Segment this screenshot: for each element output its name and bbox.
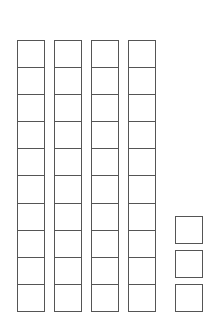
- rod-cell: [55, 41, 81, 68]
- rod-cell: [18, 176, 44, 203]
- rod-cell: [55, 95, 81, 122]
- rod-cell: [129, 204, 155, 231]
- rod-cell: [92, 68, 118, 95]
- rod-cell: [92, 285, 118, 311]
- rod-cell: [92, 258, 118, 285]
- rod-cell: [18, 149, 44, 176]
- rod-cell: [92, 204, 118, 231]
- rod-cell: [92, 122, 118, 149]
- ones-unit-2: [175, 250, 203, 278]
- rod-cell: [55, 258, 81, 285]
- rod-cell: [55, 122, 81, 149]
- tens-rod-1: [17, 40, 45, 312]
- rod-cell: [18, 41, 44, 68]
- rod-cell: [55, 68, 81, 95]
- rod-cell: [129, 95, 155, 122]
- rod-cell: [129, 231, 155, 258]
- rod-cell: [92, 41, 118, 68]
- rod-cell: [129, 258, 155, 285]
- rod-cell: [92, 231, 118, 258]
- rod-cell: [55, 176, 81, 203]
- tens-rod-2: [54, 40, 82, 312]
- rod-cell: [55, 204, 81, 231]
- rod-cell: [18, 95, 44, 122]
- rod-cell: [18, 231, 44, 258]
- rod-cell: [92, 149, 118, 176]
- ones-unit-1: [175, 216, 203, 244]
- tens-rod-3: [91, 40, 119, 312]
- base-ten-blocks-diagram: [0, 0, 221, 329]
- rod-cell: [55, 149, 81, 176]
- rod-cell: [129, 176, 155, 203]
- rod-cell: [18, 204, 44, 231]
- rod-cell: [129, 68, 155, 95]
- rod-cell: [18, 258, 44, 285]
- rod-cell: [92, 176, 118, 203]
- rod-cell: [18, 122, 44, 149]
- tens-rod-4: [128, 40, 156, 312]
- rod-cell: [129, 41, 155, 68]
- rod-cell: [18, 68, 44, 95]
- rod-cell: [18, 285, 44, 311]
- rod-cell: [129, 149, 155, 176]
- rod-cell: [55, 231, 81, 258]
- rod-cell: [55, 285, 81, 311]
- rod-cell: [129, 285, 155, 311]
- rod-cell: [129, 122, 155, 149]
- ones-unit-3: [175, 284, 203, 312]
- rod-cell: [92, 95, 118, 122]
